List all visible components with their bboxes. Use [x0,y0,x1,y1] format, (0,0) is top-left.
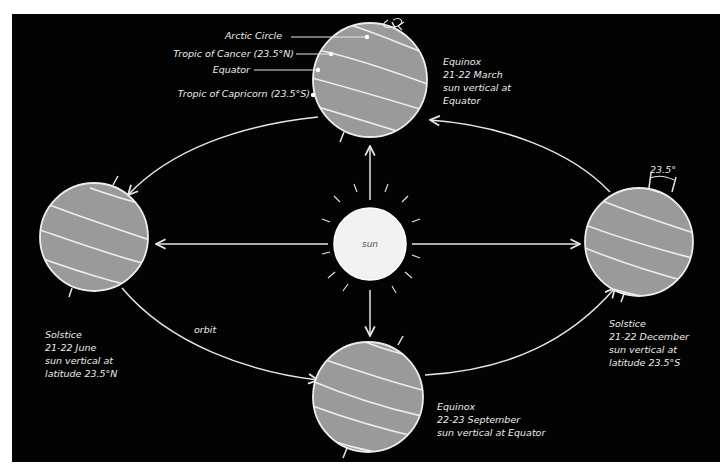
note-june: Solstice 21-22 June sun vertical at lati… [45,329,117,379]
svg-text:Equinox: Equinox [437,401,476,412]
note-september: Equinox 22-23 September sun vertical at … [437,401,546,438]
svg-text:sun vertical at Equator: sun vertical at Equator [437,427,546,438]
sun: sun [322,184,420,293]
orbit-diagram: sun Arctic Circle Tropic of Cancer (23.5… [0,0,724,468]
svg-text:22-23 September: 22-23 September [437,414,521,425]
svg-text:Solstice: Solstice [609,318,646,329]
svg-text:sun vertical at: sun vertical at [609,344,678,355]
svg-text:latitude 23.5°S: latitude 23.5°S [609,357,680,368]
svg-text:latitude 23.5°N: latitude 23.5°N [45,368,117,379]
svg-text:Equator: Equator [443,95,481,106]
svg-text:21-22 March: 21-22 March [443,69,503,80]
tilt-angle-label: 23.5° [650,164,676,175]
sun-label: sun [362,239,378,249]
tropic-of-cancer-label: Tropic of Cancer (23.5°N) [173,48,294,59]
svg-text:21-22 December: 21-22 December [609,331,690,342]
svg-text:Solstice: Solstice [45,329,82,340]
svg-text:sun vertical at: sun vertical at [45,355,114,366]
svg-text:Equinox: Equinox [443,56,482,67]
earth-september [310,336,430,458]
earth-june [40,176,150,300]
orbit-label: orbit [194,324,217,335]
arctic-circle-label: Arctic Circle [224,30,282,41]
tropic-of-capricorn-label: Tropic of Capricorn (23.5°S) [178,88,310,99]
svg-text:21-22 June: 21-22 June [45,342,96,353]
note-march: Equinox 21-22 March sun vertical at Equa… [443,56,512,106]
note-december: Solstice 21-22 December sun vertical at … [609,318,690,368]
tilt-angle-icon [650,176,674,180]
equator-label: Equator [213,64,251,75]
svg-text:sun vertical at: sun vertical at [443,82,512,93]
